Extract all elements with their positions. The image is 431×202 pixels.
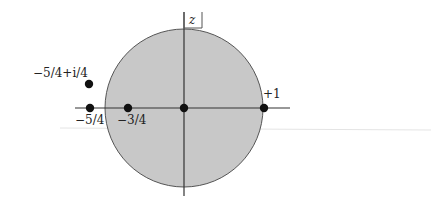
point-plus-1 (260, 104, 268, 112)
point-minus-5-4 (86, 104, 94, 112)
z-plane-label-box: z (184, 12, 202, 28)
complex-plane-diagram: z −5/4+i/4 −5/4 −3/4 +1 (0, 0, 431, 202)
point-minus-5-4-plus-i-4 (85, 80, 93, 88)
label-minus-3-4: −3/4 (117, 113, 147, 127)
label-minus-5-4: −5/4 (75, 113, 105, 127)
point-origin (180, 104, 188, 112)
label-plus-1: +1 (263, 87, 281, 101)
z-plane-label: z (188, 13, 196, 27)
label-minus-5-4-plus-i-4: −5/4+i/4 (33, 66, 88, 80)
point-minus-3-4 (124, 104, 132, 112)
